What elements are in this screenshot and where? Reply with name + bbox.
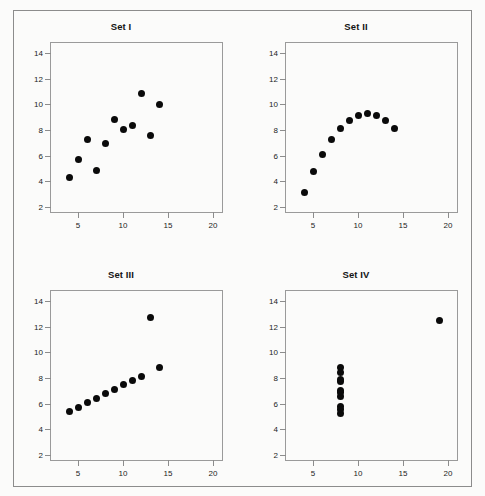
scatter-point [310, 168, 317, 175]
scatter-point [75, 156, 82, 163]
scatter-point [156, 101, 163, 108]
x-axis-tick [168, 460, 169, 466]
x-axis-tick [168, 212, 169, 218]
x-axis-tick-label: 15 [399, 221, 408, 230]
scatter-point [93, 167, 100, 174]
y-axis-tick [45, 53, 51, 54]
y-axis-tick [280, 104, 286, 105]
plot-area: 24681012145101520 [50, 42, 223, 213]
scatter-point [337, 376, 344, 383]
x-axis-tick-label: 20 [444, 469, 453, 478]
scatter-point [156, 364, 163, 371]
x-axis-tick [313, 460, 314, 466]
y-axis-tick [280, 207, 286, 208]
y-axis-tick [45, 352, 51, 353]
scatter-point [355, 112, 362, 119]
y-axis-tick-label: 4 [39, 177, 43, 186]
y-axis-tick [45, 156, 51, 157]
scatter-point [364, 110, 371, 117]
x-axis-tick-label: 5 [76, 469, 80, 478]
panel-title: Set III [0, 269, 242, 280]
y-axis-tick-label: 14 [34, 297, 43, 306]
scatter-points-layer [51, 291, 222, 460]
scatter-point [129, 122, 136, 129]
y-axis-tick [45, 455, 51, 456]
y-axis-tick [45, 301, 51, 302]
scatter-point [102, 140, 109, 147]
x-axis-tick-label: 15 [164, 469, 173, 478]
x-axis-tick [403, 460, 404, 466]
x-axis-tick [78, 212, 79, 218]
scatter-point [75, 404, 82, 411]
x-axis-tick-label: 5 [311, 469, 315, 478]
y-axis-tick-label: 4 [39, 425, 43, 434]
y-axis-tick-label: 10 [34, 100, 43, 109]
y-axis-tick [45, 429, 51, 430]
y-axis-tick-label: 12 [269, 322, 278, 331]
plot-area: 24681012145101520 [50, 290, 223, 461]
y-axis-tick-label: 8 [39, 374, 43, 383]
y-axis-tick-label: 2 [39, 450, 43, 459]
scatter-point [391, 125, 398, 132]
x-axis-tick-label: 20 [209, 221, 218, 230]
scatter-point [337, 369, 344, 376]
scatter-point [111, 386, 118, 393]
x-axis-tick [213, 212, 214, 218]
y-axis-tick [45, 181, 51, 182]
y-axis-tick-label: 4 [274, 177, 278, 186]
x-axis-tick-label: 10 [119, 469, 128, 478]
scatter-point [120, 381, 127, 388]
panel-title: Set IV [235, 269, 477, 280]
y-axis-tick-label: 14 [269, 49, 278, 58]
x-axis-tick-label: 10 [354, 469, 363, 478]
x-axis-tick-label: 5 [76, 221, 80, 230]
x-axis-tick-label: 15 [399, 469, 408, 478]
scatter-points-layer [51, 43, 222, 212]
y-axis-tick [280, 327, 286, 328]
x-axis-tick-label: 10 [119, 221, 128, 230]
plot-area: 24681012145101520 [285, 290, 458, 461]
y-axis-tick-label: 10 [34, 348, 43, 357]
y-axis-tick-label: 12 [269, 74, 278, 83]
y-axis-tick [280, 130, 286, 131]
y-axis-tick [280, 181, 286, 182]
y-axis-tick [45, 104, 51, 105]
y-axis-tick-label: 8 [274, 374, 278, 383]
scatter-point [301, 189, 308, 196]
y-axis-tick-label: 6 [274, 399, 278, 408]
y-axis-tick [280, 352, 286, 353]
scatter-point [138, 90, 145, 97]
scatter-points-layer [286, 43, 457, 212]
y-axis-tick-label: 2 [274, 450, 278, 459]
scatter-point [93, 395, 100, 402]
x-axis-tick [358, 212, 359, 218]
y-axis-tick-label: 10 [269, 348, 278, 357]
scatter-point [373, 112, 380, 119]
x-axis-tick [213, 460, 214, 466]
y-axis-tick-label: 14 [34, 49, 43, 58]
x-axis-tick [358, 460, 359, 466]
scatter-point [337, 389, 344, 396]
y-axis-tick [280, 53, 286, 54]
y-axis-tick [280, 79, 286, 80]
y-axis-tick [280, 404, 286, 405]
x-axis-tick [313, 212, 314, 218]
scatter-point [111, 116, 118, 123]
y-axis-tick [280, 378, 286, 379]
x-axis-tick [123, 212, 124, 218]
scatter-point [138, 373, 145, 380]
y-axis-tick [280, 429, 286, 430]
y-axis-tick-label: 6 [39, 399, 43, 408]
y-axis-tick-label: 8 [274, 126, 278, 135]
scatter-point [102, 390, 109, 397]
scatter-point [436, 317, 443, 324]
chart-panel-set-iii: Set III 24681012145101520 [0, 248, 242, 496]
y-axis-tick [280, 301, 286, 302]
y-axis-tick-label: 6 [39, 151, 43, 160]
scatter-point [319, 151, 326, 158]
scatter-point [337, 125, 344, 132]
x-axis-tick [403, 212, 404, 218]
scatter-point [84, 399, 91, 406]
figure-canvas: Set I 24681012145101520 Set II 246810121… [0, 0, 485, 496]
x-axis-tick-label: 10 [354, 221, 363, 230]
